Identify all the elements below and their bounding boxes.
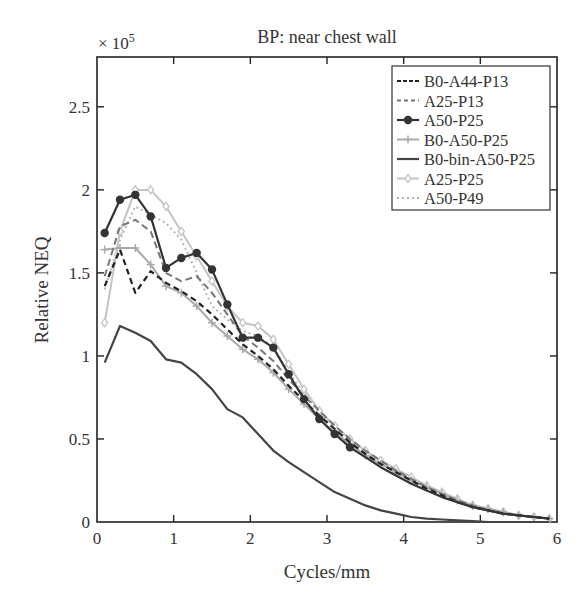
- legend-label: B0-A44-P13: [424, 72, 508, 91]
- series-a50-p49: [105, 207, 550, 519]
- x-tick-label: 6: [553, 529, 562, 548]
- series-b0-a50-p25: [101, 244, 554, 523]
- legend-label: B0-bin-A50-P25: [424, 150, 535, 169]
- y-tick-label: 2: [82, 181, 91, 200]
- legend: B0-A44-P13A25-P13A50-P25B0-A50-P25B0-bin…: [392, 66, 550, 210]
- legend-label: A50-P49: [424, 189, 484, 208]
- legend-label: A25-P13: [424, 92, 484, 111]
- y-axis-label: Relative NEQ: [31, 236, 52, 343]
- x-tick-label: 5: [476, 529, 485, 548]
- y-tick-label: 0: [82, 513, 91, 532]
- series-b0-a44-p13: [105, 250, 550, 519]
- y-tick-label: 0.5: [69, 430, 90, 449]
- x-tick-label: 2: [246, 529, 255, 548]
- x-axis-label: Cycles/mm: [284, 561, 371, 582]
- legend-label: A25-P25: [424, 170, 484, 189]
- x-tick-label: 0: [93, 529, 102, 548]
- y-tick-label: 1: [82, 347, 91, 366]
- y-tick-label: 1.5: [69, 264, 90, 283]
- y-tick-label: 2.5: [69, 98, 90, 117]
- legend-label: A50-P25: [424, 111, 484, 130]
- x-tick-label: 1: [169, 529, 178, 548]
- series-a25-p25: [102, 186, 553, 523]
- x-tick-label: 3: [323, 529, 332, 548]
- series-b0-bin-a50-p25: [105, 326, 550, 522]
- neq-line-chart: 012345600.511.522.5 B0-A44-P13A25-P13A50…: [0, 0, 587, 606]
- series-a50-p25: [100, 191, 549, 519]
- legend-label: B0-A50-P25: [424, 131, 508, 150]
- plot-series: [100, 186, 553, 523]
- y-multiplier: × 105: [98, 31, 135, 53]
- x-tick-label: 4: [399, 529, 408, 548]
- chart-title: BP: near chest wall: [257, 27, 396, 47]
